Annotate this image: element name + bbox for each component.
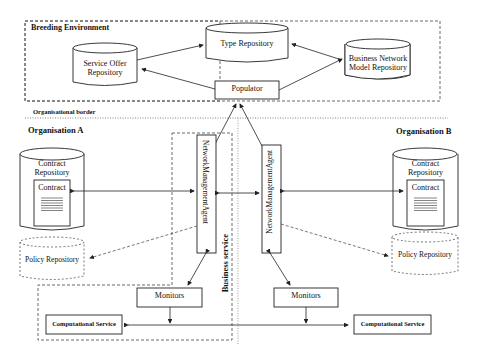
business-network-model-repository-label: Business Network Model Repository — [345, 55, 411, 73]
contract-repo-a-line2: Repository — [20, 169, 84, 178]
monitors-b-label: Monitors — [274, 292, 338, 301]
organisation-a-label: Organisation A — [28, 126, 84, 135]
policy-repository-b-label: Policy Repository — [392, 251, 458, 259]
policy-repository-a-label: Policy Repository — [20, 256, 84, 264]
page-number: 154 — [22, 0, 33, 1]
computational-service-b-label: Computational Service — [354, 320, 431, 327]
service-offer-line2: Repository — [73, 69, 137, 78]
business-service-label: Business service — [221, 234, 230, 292]
monitors-a-label: Monitors — [137, 292, 202, 301]
contract-repository-b-label: Contract Repository — [393, 160, 458, 178]
service-offer-repository-label: Service Offer Repository — [73, 60, 137, 78]
contract-repository-a-label: Contract Repository — [20, 160, 84, 178]
contract-a-label: Contract — [34, 184, 70, 193]
network-management-agent-a-label: NetworkManagementAgent — [201, 140, 209, 224]
contract-repo-b-line2: Repository — [393, 169, 458, 178]
organisation-b-label: Organisation B — [396, 127, 452, 136]
bnm-line2: Model Repository — [345, 64, 411, 73]
populator-label: Populator — [215, 85, 279, 94]
organisational-border-label: Organisational border — [33, 108, 95, 115]
network-management-agent-b-label: NetworkManagementAgent — [266, 150, 274, 234]
computational-service-a-label: Computational Service — [46, 320, 122, 327]
type-repository-label: Type Repository — [209, 40, 285, 49]
contract-b-label: Contract — [407, 184, 444, 193]
breeding-environment-label: Breeding Environment — [31, 24, 109, 33]
